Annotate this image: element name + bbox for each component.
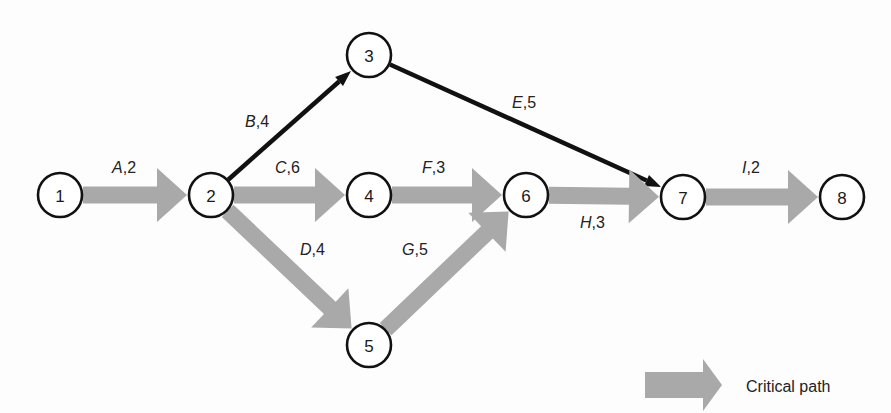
edge-label-c: C,6 [275,159,300,176]
node-label: 8 [837,189,846,208]
node-1: 1 [38,173,82,217]
node-label: 5 [364,337,373,356]
critical-arrow-d [222,205,352,329]
node-label: 7 [678,189,687,208]
critical-arrow-a [83,168,187,222]
edge-label-f: F,3 [422,159,445,176]
critical-arrow-i [706,170,818,224]
activity-duration: 3 [436,159,445,176]
activity-duration: 6 [291,159,300,176]
node-label: 6 [521,187,530,206]
activity-duration: 5 [527,94,536,111]
activity-duration: 4 [316,241,325,258]
activity-name: A [111,159,123,176]
edge-label-e: E,5 [512,94,536,111]
node-6: 6 [504,173,548,217]
edge-label-d: D,4 [300,241,325,258]
activity-name: G [402,241,414,258]
activity-duration: 3 [596,214,605,231]
activity-duration: 5 [419,241,428,258]
network-diagram: 12345678 A,2B,4C,6D,4E,5F,3G,5H,3I,2 Cri… [0,0,891,413]
node-2: 2 [189,173,233,217]
activity-name: H [580,214,592,231]
critical-arrow-g [380,212,509,336]
node-5: 5 [347,323,391,367]
edge-label-g: G,5 [402,241,428,258]
edge-label-i: I,2 [742,159,760,176]
legend-label: Critical path [746,378,830,395]
node-label: 3 [364,47,373,66]
activity-name: E [512,94,523,111]
activity-name: D [300,241,312,258]
activity-duration: 4 [260,113,269,130]
edge-label-a: A,2 [111,159,136,176]
activity-name: C [275,159,287,176]
node-label: 4 [364,187,373,206]
node-8: 8 [820,175,864,219]
node-label: 2 [206,187,215,206]
edge-label-h: H,3 [580,214,605,231]
arrowhead-icon-e [644,175,661,187]
node-3: 3 [347,33,391,77]
diagram-svg: 12345678 A,2B,4C,6D,4E,5F,3G,5H,3I,2 Cri… [0,0,891,413]
activity-name: B [245,113,256,130]
node-7: 7 [661,175,705,219]
activity-duration: 2 [751,159,760,176]
node-label: 1 [55,187,64,206]
node-4: 4 [347,173,391,217]
legend: Critical path [645,359,830,411]
activity-duration: 2 [127,159,136,176]
legend-critical-arrow-icon [645,359,722,411]
critical-arrow-c [234,168,345,222]
edge-label-b: B,4 [245,113,269,130]
